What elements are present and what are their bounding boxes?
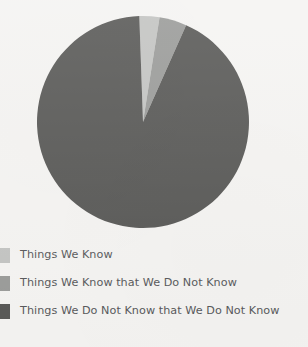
legend-item-things-we-do-not-know-that-we-do-not-know[interactable]: Things We Do Not Know that We Do Not Kno… [0, 300, 308, 328]
pie-chart [0, 0, 308, 246]
chart-legend: Things We Know Things We Know that We Do… [0, 244, 308, 328]
legend-item-things-we-know-that-we-do-not-know[interactable]: Things We Know that We Do Not Know [0, 272, 308, 300]
chart-page: Things We Know Things We Know that We Do… [0, 0, 308, 347]
legend-label-things-we-know-that-we-do-not-know: Things We Know that We Do Not Know [20, 274, 237, 292]
legend-swatch-things-we-do-not-know-that-we-do-not-know [0, 304, 10, 319]
legend-item-things-we-know[interactable]: Things We Know [0, 244, 308, 272]
legend-swatch-things-we-know [0, 248, 10, 263]
legend-label-things-we-know: Things We Know [20, 246, 113, 264]
legend-label-things-we-do-not-know-that-we-do-not-know: Things We Do Not Know that We Do Not Kno… [20, 302, 279, 320]
pie-chart-area [0, 0, 308, 246]
pie-slice-group [37, 16, 249, 228]
legend-swatch-things-we-know-that-we-do-not-know [0, 276, 10, 291]
